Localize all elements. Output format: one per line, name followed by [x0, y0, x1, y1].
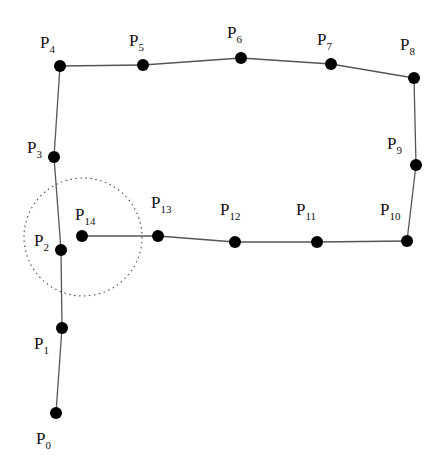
label-p8: P8	[400, 35, 415, 57]
edge-p3-p4	[54, 66, 60, 157]
label-p12: P12	[220, 200, 240, 222]
point-p10	[401, 235, 413, 247]
edges-layer	[54, 58, 416, 413]
label-p4: P4	[40, 33, 55, 55]
polyline-diagram: P0P1P2P3P4P5P6P7P8P9P10P11P12P13P14	[0, 0, 444, 473]
edge-p8-p9	[414, 78, 416, 165]
label-p6: P6	[227, 23, 242, 45]
edge-p4-p5	[60, 65, 143, 66]
edge-p12-p13	[158, 236, 235, 242]
edge-p6-p7	[241, 58, 331, 64]
label-p9: P9	[387, 134, 402, 156]
label-p1: P1	[34, 334, 49, 356]
point-p4	[54, 60, 66, 72]
point-p6	[235, 52, 247, 64]
edge-p2-p3	[54, 157, 61, 250]
edge-p9-p10	[407, 165, 416, 241]
edge-p10-p11	[317, 241, 407, 242]
point-p3	[48, 151, 60, 163]
point-p11	[311, 236, 323, 248]
edge-p1-p2	[61, 250, 62, 328]
label-p3: P3	[27, 138, 42, 160]
point-p12	[229, 236, 241, 248]
label-p13: P13	[151, 193, 172, 215]
point-p7	[325, 58, 337, 70]
point-p2	[55, 244, 67, 256]
point-p0	[50, 407, 62, 419]
label-p0: P0	[36, 429, 51, 451]
label-p14: P14	[75, 205, 96, 227]
edge-p7-p8	[331, 64, 414, 78]
point-p1	[56, 322, 68, 334]
point-p9	[410, 159, 422, 171]
point-p8	[408, 72, 420, 84]
label-p11: P11	[296, 200, 316, 222]
edge-p0-p1	[56, 328, 62, 413]
edge-p5-p6	[143, 58, 241, 65]
label-p2: P2	[34, 231, 49, 253]
point-p13	[152, 230, 164, 242]
label-p7: P7	[317, 30, 332, 52]
label-p10: P10	[380, 200, 401, 222]
point-p5	[137, 59, 149, 71]
point-p14	[76, 230, 88, 242]
label-p5: P5	[129, 31, 144, 53]
